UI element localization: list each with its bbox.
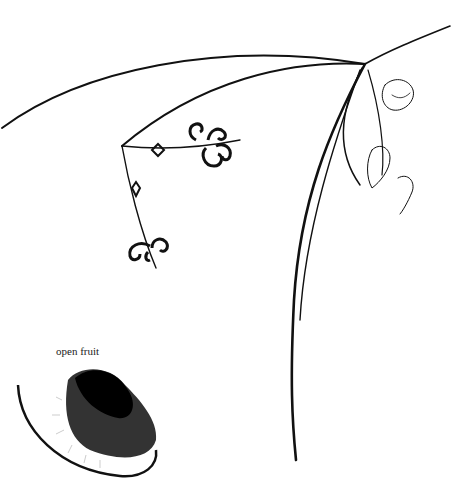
- plant-drawing: [0, 0, 465, 504]
- open-fruit-drawing: [18, 369, 156, 476]
- open-fruit-label: open fruit: [56, 345, 99, 357]
